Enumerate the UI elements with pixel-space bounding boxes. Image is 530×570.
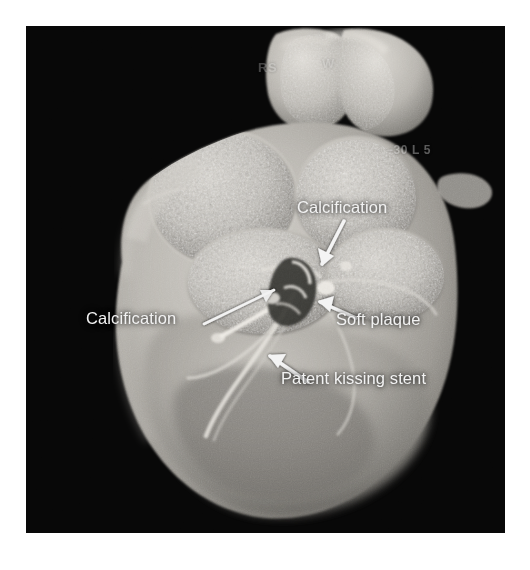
scanner-overlay-text-top-right: W [322, 56, 335, 71]
kissing-stent-region [268, 258, 317, 326]
scanner-overlay-text-window-level: -30 L 5 [389, 143, 431, 157]
right-edge-structure [437, 173, 492, 208]
annotation-label-calcification-lower: Calcification [86, 309, 176, 328]
annotation-pointers [26, 26, 505, 533]
pointer-calcification-lower [204, 290, 274, 324]
heart-volume-rendering [26, 26, 505, 533]
scanner-overlay-text-top-left: RS [258, 60, 277, 75]
great-vessels [256, 26, 433, 146]
calcified-plaques [211, 261, 352, 343]
annotation-label-calcification-upper: Calcification [297, 198, 387, 217]
figure-page: RS W -30 L 5 [0, 0, 530, 570]
annotation-label-patent-kissing-stent: Patent kissing stent [281, 369, 426, 388]
annotation-label-soft-plaque: Soft plaque [336, 310, 421, 329]
ct-scan-frame: RS W -30 L 5 [26, 26, 505, 533]
pointer-calcification-upper [318, 221, 344, 266]
